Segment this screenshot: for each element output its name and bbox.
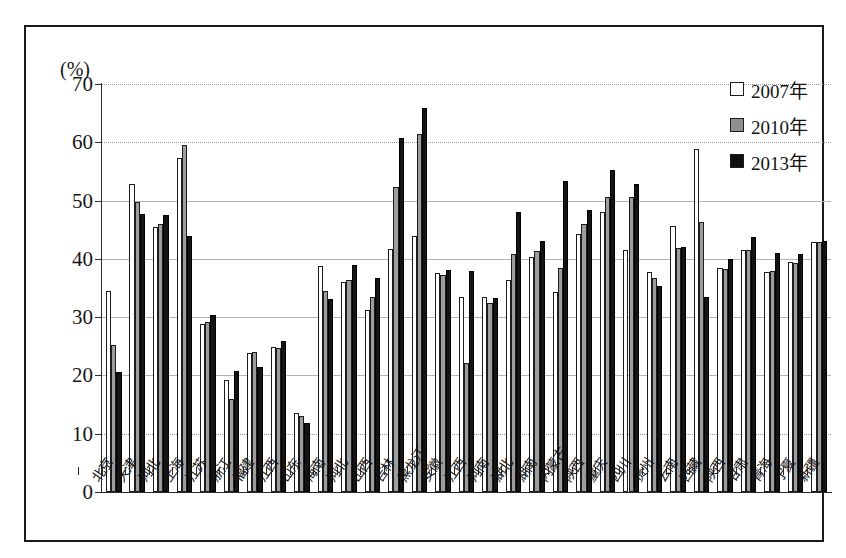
- bar-group: [431, 84, 455, 492]
- y-axis-tick-label: 0: [83, 480, 94, 505]
- x-axis-tick: [454, 467, 455, 475]
- bar-group: [126, 84, 150, 492]
- bar-group: [196, 84, 220, 492]
- x-axis-tick: [595, 467, 596, 475]
- x-axis-tick: [713, 467, 714, 475]
- bar-group: [408, 84, 432, 492]
- x-axis-tick: [736, 467, 737, 475]
- bar-group: [361, 84, 385, 492]
- bar-group: [690, 84, 714, 492]
- x-axis-tick: [290, 467, 291, 475]
- bar-group: [525, 84, 549, 492]
- bar-2013-西藏: [704, 297, 709, 492]
- bar-2013-河北: [352, 265, 357, 492]
- bar-2013-山西: [375, 278, 380, 492]
- x-axis-tick: [572, 467, 573, 475]
- bar-2013-云南: [681, 247, 686, 492]
- x-axis-tick: [431, 467, 432, 475]
- legend-swatch-icon-2013: [730, 154, 744, 168]
- bar-group: [173, 84, 197, 492]
- bar-group: [290, 84, 314, 492]
- x-axis-tick: [243, 467, 244, 475]
- bar-2013-宁夏: [798, 254, 803, 492]
- bar-group: [572, 84, 596, 492]
- x-axis-tick: [666, 467, 667, 475]
- chart-figure: (%) 010203040506070 2007年 2010年 2013年 北京…: [0, 0, 846, 558]
- y-axis-tick-label: 40: [72, 246, 93, 271]
- bar-2013-陕西: [728, 259, 733, 492]
- bar-group: [102, 84, 126, 492]
- bar-group: [502, 84, 526, 492]
- bar-2013-上海: [187, 236, 192, 492]
- x-axis-tick: [149, 467, 150, 475]
- bar-group: [643, 84, 667, 492]
- bar-2013-四川: [634, 184, 639, 492]
- x-axis-tick: [807, 467, 808, 475]
- legend-swatch-icon-2007: [730, 82, 744, 96]
- x-axis-tick: [642, 467, 643, 475]
- x-axis-tick: [619, 467, 620, 475]
- x-axis-tick: [689, 467, 690, 475]
- bar-2013-贵州: [657, 286, 662, 492]
- legend-item-2010: 2010年: [730, 107, 835, 143]
- bar-group: [220, 84, 244, 492]
- x-axis-tick: [501, 467, 502, 475]
- bar-2013-吉林: [399, 138, 404, 492]
- bar-group: [455, 84, 479, 492]
- x-axis-tick: [102, 467, 103, 475]
- bar-group: [619, 84, 643, 492]
- bar-2013-湖北: [516, 212, 521, 492]
- x-axis-tick: [172, 467, 173, 475]
- bar-2013-陕西: [587, 210, 592, 492]
- x-axis-tick: [337, 467, 338, 475]
- x-axis-tick: [783, 467, 784, 475]
- x-axis-tick: [125, 467, 126, 475]
- x-axis-tick: [78, 467, 79, 475]
- legend-label-2010: 2010年: [751, 112, 808, 139]
- bar-2013-湖南: [540, 241, 545, 492]
- x-axis-tick: [478, 467, 479, 475]
- legend-item-2013: 2013年: [730, 143, 835, 179]
- bar-group: [596, 84, 620, 492]
- bar-group: [337, 84, 361, 492]
- x-axis-tick: [266, 467, 267, 475]
- bar-group: [314, 84, 338, 492]
- bar-2013-黑龙江: [422, 108, 427, 492]
- x-axis-tick: [548, 467, 549, 475]
- x-axis-tick: [525, 467, 526, 475]
- chart-frame: (%) 010203040506070 2007年 2010年 2013年 北京…: [24, 25, 824, 542]
- bar-2013-江西: [469, 271, 474, 492]
- bar-group: [478, 84, 502, 492]
- bar-group: [267, 84, 291, 492]
- x-axis-tick: [760, 467, 761, 475]
- bar-2013-重庆: [610, 170, 615, 492]
- plot-area: 010203040506070: [102, 84, 831, 492]
- x-axis-tick: [360, 467, 361, 475]
- x-axis-tick: [407, 467, 408, 475]
- y-axis-tick-label: 20: [72, 363, 93, 388]
- y-axis-line: [101, 83, 102, 493]
- bar-2013-新疆: [822, 241, 827, 492]
- bar-2013-甘肃: [751, 237, 756, 492]
- legend-item-2007: 2007年: [730, 71, 835, 107]
- bar-group: [666, 84, 690, 492]
- bar-2013-河北: [163, 215, 168, 492]
- x-axis-tick: [196, 467, 197, 475]
- bar-group: [384, 84, 408, 492]
- bar-group: [549, 84, 573, 492]
- y-axis-tick-label: 10: [72, 421, 93, 446]
- y-axis-tick-label: 50: [72, 188, 93, 213]
- legend-label-2013: 2013年: [751, 148, 808, 175]
- y-axis-tick-label: 60: [72, 130, 93, 155]
- legend-swatch-icon-2010: [730, 118, 744, 132]
- bar-group: [149, 84, 173, 492]
- y-axis-tick-label: 70: [72, 72, 93, 97]
- x-axis-tick: [384, 467, 385, 475]
- bar-2013-内蒙古: [563, 181, 568, 492]
- bar-2013-安徽: [446, 270, 451, 492]
- x-axis-line: [101, 492, 832, 493]
- x-axis-tick: [219, 467, 220, 475]
- x-axis-tick: [313, 467, 314, 475]
- bar-2013-天津: [140, 214, 145, 492]
- legend-label-2007: 2007年: [751, 76, 808, 103]
